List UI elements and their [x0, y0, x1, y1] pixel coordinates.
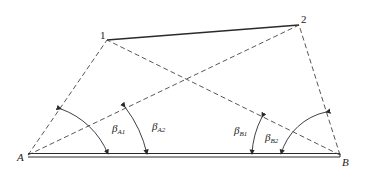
angle-arc-a1 [61, 109, 108, 154]
angle-arc-b1 [252, 117, 262, 154]
baseline-ab [28, 154, 340, 158]
angle-label-b1: βB1 [233, 124, 247, 138]
point-label-2: 2 [301, 13, 307, 25]
sight-line-a-2 [28, 25, 299, 155]
point-label-b: B [342, 156, 349, 168]
sight-line-a-1 [28, 40, 107, 155]
sight-line-b-2 [299, 25, 340, 155]
angle-arc-b2 [281, 112, 326, 154]
angle-arc-a2 [125, 107, 147, 154]
angle-label-a1: βA1 [111, 122, 125, 136]
point-label-a: A [16, 151, 24, 163]
angle-label-b2: βB2 [264, 131, 279, 145]
angle-label-a2: βA2 [151, 120, 166, 134]
triangulation-diagram: 1 2 A B βA1 βA2 βB1 βB2 [0, 0, 366, 181]
point-label-1: 1 [100, 29, 106, 41]
segment-1-2 [107, 25, 299, 40]
